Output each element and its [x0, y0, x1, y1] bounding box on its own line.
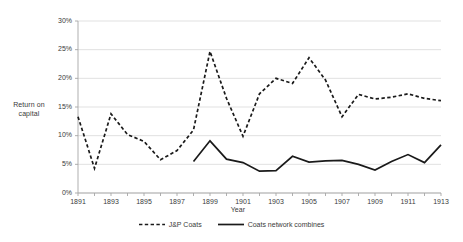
- x-tick-label: 1895: [130, 198, 158, 205]
- legend-entry-0[interactable]: J&P Coats: [139, 221, 202, 228]
- x-tick-label: 1891: [64, 198, 92, 205]
- y-tick-label: 5%: [48, 160, 72, 167]
- series-line-1: [194, 141, 442, 171]
- x-tick-label: 1911: [394, 198, 422, 205]
- legend-swatch-solid: [218, 221, 244, 228]
- y-tick-label: 30%: [48, 17, 72, 24]
- x-tick-label: 1905: [295, 198, 323, 205]
- x-tick-label: 1903: [262, 198, 290, 205]
- x-tick-label: 1907: [328, 198, 356, 205]
- y-tick-label: 20%: [48, 74, 72, 81]
- x-tick-label: 1893: [97, 198, 125, 205]
- x-tick-label: 1899: [196, 198, 224, 205]
- x-tick-label: 1897: [163, 198, 191, 205]
- y-tick-label: 0%: [48, 189, 72, 196]
- legend-label: J&P Coats: [169, 221, 202, 228]
- y-axis-title: Return on capital: [6, 100, 52, 118]
- x-tick-label: 1901: [229, 198, 257, 205]
- y-tick-label: 10%: [48, 131, 72, 138]
- x-tick-label: 1909: [361, 198, 389, 205]
- gridlines: [78, 21, 441, 193]
- x-axis-title: Year: [218, 205, 258, 214]
- chart-legend: J&P CoatsCoats network combines: [0, 221, 463, 228]
- data-series-layer: [78, 51, 441, 171]
- legend-label: Coats network combines: [248, 221, 325, 228]
- y-tick-label: 25%: [48, 45, 72, 52]
- legend-entry-1[interactable]: Coats network combines: [218, 221, 325, 228]
- legend-swatch-dashed: [139, 221, 165, 228]
- chart-container: 0%5%10%15%20%25%30% 18911893189518971899…: [0, 0, 463, 242]
- x-tick-label: 1913: [427, 198, 455, 205]
- series-line-0: [78, 51, 441, 168]
